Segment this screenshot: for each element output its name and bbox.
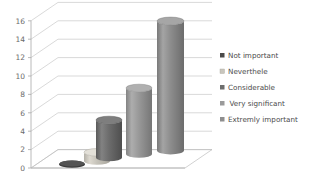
chart-container: 16 14 12 10 8 6 4 2 0 (0, 0, 317, 186)
y-tick-0: 0 (20, 164, 25, 173)
legend-label: Very significant (230, 99, 286, 108)
legend-label: Considerable (228, 83, 276, 92)
square-marker-icon (220, 101, 225, 106)
bar-considerable[interactable] (96, 116, 122, 161)
column-chart-3d: 16 14 12 10 8 6 4 2 0 (0, 0, 317, 186)
y-tick-14: 14 (15, 35, 25, 44)
y-tick-12: 12 (15, 53, 25, 62)
y-tick-8: 8 (20, 90, 25, 99)
chart-legend: Not important Neverthele Considerable Ve… (220, 51, 298, 124)
legend-item-very-significant[interactable]: Very significant (220, 99, 285, 108)
bar-extremly-important[interactable] (157, 17, 184, 154)
legend-label: Not important (228, 51, 279, 60)
y-axis-tick-labels: 16 14 12 10 8 6 4 2 0 (15, 17, 25, 173)
bar-not-important[interactable] (59, 160, 85, 167)
y-tick-4: 4 (20, 127, 25, 136)
legend-item-extremly-important[interactable]: Extremly important (220, 115, 298, 124)
legend-label: Extremly important (228, 115, 298, 124)
square-marker-icon (220, 53, 225, 58)
y-tick-2: 2 (20, 145, 25, 154)
y-tick-16: 16 (15, 17, 25, 26)
square-marker-icon (220, 69, 225, 74)
legend-item-not-important[interactable]: Not important (220, 51, 279, 60)
y-tick-10: 10 (15, 72, 25, 81)
legend-item-neverthele[interactable]: Neverthele (220, 67, 268, 76)
square-marker-icon (220, 85, 225, 90)
square-marker-icon (220, 117, 225, 122)
legend-label: Neverthele (228, 67, 268, 76)
legend-item-considerable[interactable]: Considerable (220, 83, 276, 92)
y-tick-6: 6 (20, 109, 25, 118)
bar-very-significant[interactable] (126, 84, 152, 158)
